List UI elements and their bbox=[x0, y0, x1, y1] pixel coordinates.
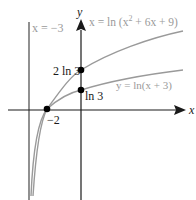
point-2ln3-label: 2 ln 3 bbox=[53, 64, 80, 78]
point-neg2 bbox=[44, 106, 51, 113]
asymptote-label: x = −3 bbox=[32, 21, 64, 35]
point-ln3-label: ln 3 bbox=[85, 89, 103, 103]
curve1-label: x = ln (x2 + 6x + 9) bbox=[89, 14, 178, 29]
x-axis-label: x bbox=[188, 103, 195, 117]
graph: x = −3 y x x = ln (x2 + 6x + 9) y = ln(x… bbox=[0, 0, 196, 200]
point-neg2-label: −2 bbox=[47, 113, 60, 127]
curve2-label: y = ln(x + 3) bbox=[116, 79, 172, 92]
y-axis-label: y bbox=[76, 5, 83, 19]
point-ln3 bbox=[78, 87, 85, 94]
y-axis-arrow-icon bbox=[76, 19, 86, 31]
